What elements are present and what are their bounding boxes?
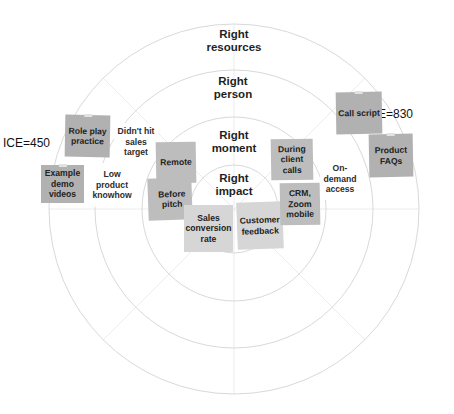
note-text: Role play practice — [67, 125, 108, 147]
note-text: Example demo videos — [43, 168, 82, 200]
note-role-play-practice[interactable]: Role play practice — [65, 115, 111, 158]
note-text: During client calls — [273, 143, 312, 175]
note-text: On-demand access — [322, 163, 358, 195]
note-tab — [84, 114, 92, 117]
note-example-demo-videos[interactable]: Example demo videos — [41, 165, 84, 203]
note-text: Customer feedback — [239, 214, 282, 236]
note-customer-feedback[interactable]: Customer feedback — [236, 201, 284, 250]
note-tab — [387, 133, 395, 136]
ring-label-line: Right — [189, 172, 279, 185]
ring-label-line: impact — [189, 185, 279, 198]
ring-label-line: person — [188, 88, 278, 101]
ring-label-line: resources — [189, 41, 279, 54]
note-text: Remote — [160, 157, 192, 168]
note-product-faqs[interactable]: Product FAQs — [369, 134, 414, 178]
note-tab — [59, 164, 67, 167]
note-sales-conversion-rate[interactable]: Sales conversion rate — [184, 205, 233, 252]
note-didnt-hit-sales-target[interactable]: Didn't hit sales target — [114, 123, 158, 161]
note-crm-zoom-mobile[interactable]: CRM, Zoom mobile — [280, 183, 321, 226]
ring-label-line: Right — [189, 129, 279, 142]
note-on-demand-access[interactable]: On-demand access — [320, 158, 360, 200]
ring-label-person: Right person — [188, 75, 278, 101]
note-call-script[interactable]: Call script — [336, 92, 383, 135]
ring-label-line: Right — [189, 28, 279, 41]
note-text: Sales conversion rate — [186, 213, 232, 245]
ring-label-resources: Right resources — [189, 28, 279, 54]
ring-label-impact: Right impact — [189, 172, 279, 198]
note-during-client-calls[interactable]: During client calls — [271, 139, 314, 181]
note-low-product-knowhow[interactable]: Low product knowhow — [90, 163, 134, 207]
note-text: Call script — [338, 107, 380, 118]
note-text: Low product knowhow — [92, 169, 131, 201]
note-text: Product FAQs — [371, 145, 411, 167]
ring-label-line: moment — [189, 142, 279, 155]
ring-label-moment: Right moment — [189, 129, 279, 155]
note-tab — [355, 91, 363, 94]
note-text: CRM, Zoom mobile — [282, 188, 319, 220]
note-text: Didn't hit sales target — [116, 126, 156, 158]
ice-score-left: ICE=450 — [3, 136, 50, 150]
ring-label-line: Right — [188, 75, 278, 88]
